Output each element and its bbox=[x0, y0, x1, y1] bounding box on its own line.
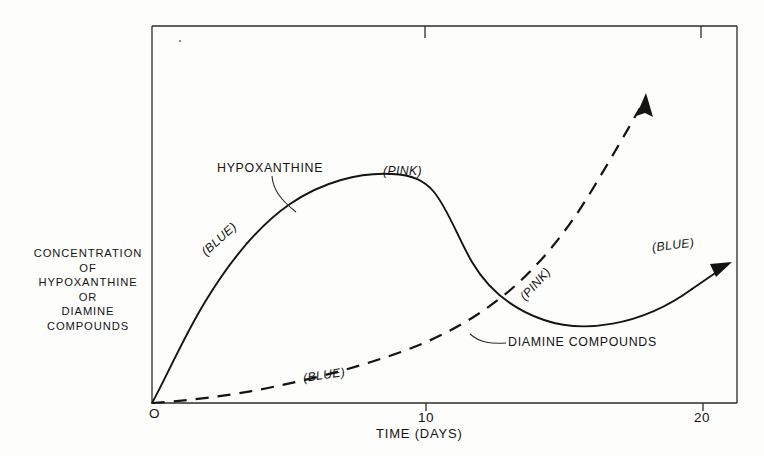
origin-label: O bbox=[149, 406, 160, 422]
chart-canvas bbox=[0, 0, 764, 456]
y-axis-title-line-1: CONCENTRATION bbox=[22, 246, 154, 261]
hypoxanthine-curve bbox=[152, 174, 692, 403]
diamine-callout-label: DIAMINE COMPOUNDS bbox=[508, 335, 657, 350]
x-tick-label-10: 10 bbox=[418, 410, 434, 426]
y-axis-title-line-2: OF bbox=[22, 261, 154, 276]
hypoxanthine-callout-label: HYPOXANTHINE bbox=[217, 161, 323, 176]
y-axis-title-line-5: DIAMINE bbox=[22, 304, 154, 319]
chart-figure: CONCENTRATION OF HYPOXANTHINE OR DIAMINE… bbox=[0, 0, 764, 456]
diamine-arrowhead bbox=[636, 93, 653, 117]
diamine-curve bbox=[152, 108, 640, 403]
x-axis-title: TIME (DAYS) bbox=[376, 426, 463, 441]
pink-annotation-hypoxanthine-peak: (PINK) bbox=[383, 164, 422, 178]
y-axis-title-line-4: OR bbox=[22, 290, 154, 305]
diamine-leader-line bbox=[470, 334, 506, 343]
scan-speck bbox=[179, 40, 181, 42]
y-axis-title: CONCENTRATION OF HYPOXANTHINE OR DIAMINE… bbox=[22, 246, 154, 333]
x-tick-label-20: 20 bbox=[694, 410, 710, 426]
axis-ticks bbox=[425, 26, 703, 411]
y-axis-title-line-6: COMPOUNDS bbox=[22, 319, 154, 334]
y-axis-title-line-3: HYPOXANTHINE bbox=[22, 275, 154, 290]
series-hypoxanthine bbox=[152, 174, 732, 403]
hypoxanthine-leader-line bbox=[272, 176, 296, 212]
series-diamine-compounds bbox=[152, 93, 653, 403]
